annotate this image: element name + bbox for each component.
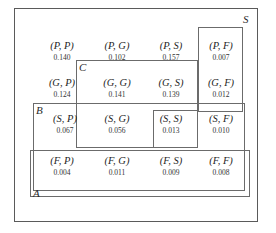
- outcome-cell: (S, S)0.013: [143, 113, 199, 136]
- outcome-probability-value: 0.008: [193, 167, 249, 178]
- outcome-cell: (G, P)0.124: [34, 77, 90, 100]
- outcome-cell: (F, P)0.004: [34, 155, 90, 178]
- outcome-probability-value: 0.011: [89, 167, 145, 178]
- set-label-a: A: [33, 188, 40, 199]
- outcome-pair-label: (F, S): [143, 155, 199, 167]
- outcome-cell: (F, F)0.008: [193, 155, 249, 178]
- outcome-probability-value: 0.157: [143, 52, 199, 63]
- outcome-pair-label: (S, S): [143, 113, 199, 125]
- outcome-pair-label: (F, F): [193, 155, 249, 167]
- outcome-probability-value: 0.141: [89, 89, 145, 100]
- outcome-cell: (P, F)0.007: [193, 40, 249, 63]
- outcome-pair-label: (P, G): [89, 40, 145, 52]
- outcome-probability-value: 0.056: [89, 125, 145, 136]
- outcome-probability-value: 0.004: [34, 167, 90, 178]
- outcome-pair-label: (P, P): [34, 40, 90, 52]
- outcome-cell: (S, G)0.056: [89, 113, 145, 136]
- outcome-pair-label: (P, F): [193, 40, 249, 52]
- outcome-probability-value: 0.007: [193, 52, 249, 63]
- outcome-pair-label: (F, P): [34, 155, 90, 167]
- outcome-cell: (S, F)0.010: [193, 113, 249, 136]
- outcome-probability-value: 0.102: [89, 52, 145, 63]
- outcome-probability-value: 0.012: [193, 89, 249, 100]
- outcome-cell: (G, F)0.012: [193, 77, 249, 100]
- outcome-pair-label: (S, G): [89, 113, 145, 125]
- outcome-pair-label: (P, S): [143, 40, 199, 52]
- outcome-cell: (F, S)0.009: [143, 155, 199, 178]
- set-label-s: S: [243, 14, 249, 25]
- set-label-c: C: [79, 62, 86, 73]
- outcome-cell: (P, P)0.140: [34, 40, 90, 63]
- outcome-cell: (P, G)0.102: [89, 40, 145, 63]
- outcome-probability-value: 0.009: [143, 167, 199, 178]
- outcome-probability-value: 0.139: [143, 89, 199, 100]
- outcome-probability-value: 0.124: [34, 89, 90, 100]
- outcome-cell: (S, P)0.067: [37, 113, 93, 136]
- outcome-pair-label: (S, F): [193, 113, 249, 125]
- outcome-pair-label: (G, F): [193, 77, 249, 89]
- outcome-pair-label: (G, S): [143, 77, 199, 89]
- outcome-probability-value: 0.013: [143, 125, 199, 136]
- outcome-probability-value: 0.067: [37, 125, 93, 136]
- outcome-pair-label: (F, G): [89, 155, 145, 167]
- outcome-cell: (P, S)0.157: [143, 40, 199, 63]
- outcome-probability-value: 0.140: [34, 52, 90, 63]
- outcome-cell: (G, S)0.139: [143, 77, 199, 100]
- outcome-pair-label: (S, P): [37, 113, 93, 125]
- outcome-probability-value: 0.010: [193, 125, 249, 136]
- outcome-pair-label: (G, G): [89, 77, 145, 89]
- outcome-cell: (F, G)0.011: [89, 155, 145, 178]
- venn-diagram-canvas: SCBA(P, P)0.140(P, G)0.102(P, S)0.157(P,…: [0, 0, 276, 233]
- outcome-pair-label: (G, P): [34, 77, 90, 89]
- outcome-cell: (G, G)0.141: [89, 77, 145, 100]
